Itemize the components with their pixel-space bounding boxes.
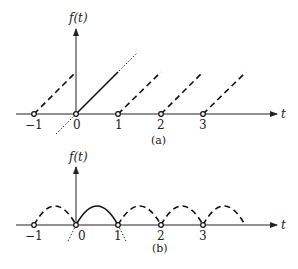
x-label-b: t: [281, 218, 286, 232]
point-1-b: [116, 223, 121, 228]
point-1-a: [116, 112, 121, 117]
x-label-a: t: [281, 107, 286, 121]
point-2-b: [159, 223, 164, 228]
arch-dashed-3: [203, 206, 245, 225]
caption-b: (b): [152, 242, 168, 255]
tick-2-b: 2: [157, 229, 165, 243]
tick-minus1-b: −1: [25, 229, 43, 243]
point-0-b: [74, 223, 79, 228]
figure: f(t) t −1 0 1 2 3 (a) f(t) t −1 0 1 2 3: [0, 0, 298, 269]
tick-2-a: 2: [157, 118, 165, 132]
arch-dashed-2: [161, 206, 203, 225]
caption-a: (a): [151, 134, 166, 147]
ramp-solid-0: [76, 72, 118, 114]
tick-3-b: 3: [199, 229, 207, 243]
point-0-a: [74, 112, 79, 117]
ramp-dashed-1: [118, 72, 161, 114]
point-minus1-b: [32, 223, 37, 228]
y-label-a: f(t): [68, 11, 88, 25]
arch-solid-0: [76, 206, 118, 225]
point-3-b: [201, 223, 206, 228]
tick-minus1-a: −1: [25, 118, 43, 132]
tick-1-a: 1: [115, 118, 123, 132]
ramp-dashed-minus1: [34, 72, 76, 114]
ramp-dashed-2: [161, 72, 203, 114]
point-minus1-a: [32, 112, 37, 117]
arch-dashed-1: [118, 206, 161, 225]
tick-1-b: 1: [114, 229, 122, 243]
ramp-dashed-3: [203, 72, 246, 114]
plot-a: f(t) t −1 0 1 2 3 (a): [16, 11, 286, 147]
tick-3-a: 3: [199, 118, 207, 132]
y-label-b: f(t): [68, 150, 88, 164]
tick-0-b: 0: [78, 229, 86, 243]
point-2-a: [159, 112, 164, 117]
arch-dashed-minus1: [34, 206, 76, 225]
plot-b: f(t) t −1 0 1 2 3 (b): [16, 150, 286, 255]
point-3-a: [201, 112, 206, 117]
tick-0-a: 0: [73, 118, 81, 132]
